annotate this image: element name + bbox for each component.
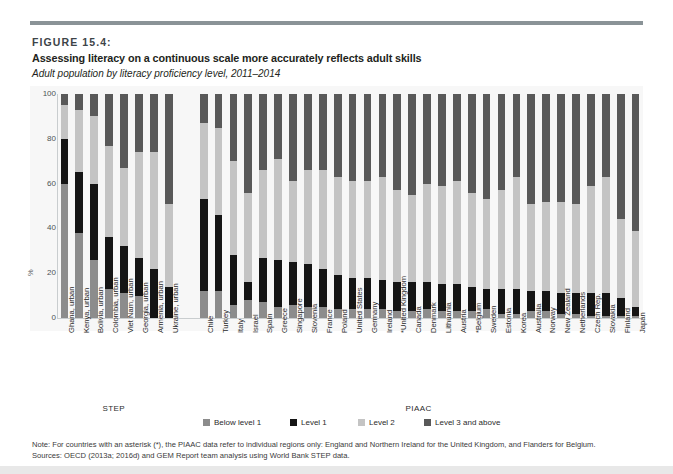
stacked-bar[interactable] xyxy=(319,94,327,318)
stacked-bar[interactable] xyxy=(542,94,550,318)
sources-text: Sources: OECD (2013a; 2016d) and GEM Rep… xyxy=(32,451,640,462)
x-axis-label: United States xyxy=(356,287,364,333)
stacked-bar[interactable] xyxy=(215,94,223,318)
stacked-bar[interactable] xyxy=(468,94,476,318)
x-axis-label: Australia xyxy=(535,303,543,333)
legend-item[interactable]: Level 1 xyxy=(290,418,327,427)
stacked-bar[interactable] xyxy=(602,94,610,318)
legend-item[interactable]: Level 2 xyxy=(358,418,395,427)
legend-item[interactable]: Below level 1 xyxy=(203,418,261,427)
x-axis-label: Singapore xyxy=(296,298,304,333)
bar-segment-level-3-and-above xyxy=(617,94,625,219)
y-tick-label: 0 xyxy=(32,314,56,322)
bar-segment-level-2 xyxy=(438,186,446,285)
stacked-bar[interactable] xyxy=(61,94,69,318)
stacked-bar[interactable] xyxy=(498,94,506,318)
stacked-bar[interactable] xyxy=(259,94,267,318)
x-axis-label: Ukraine, urban xyxy=(172,283,180,333)
bar-segment-level-3-and-above xyxy=(230,94,238,161)
stacked-bar[interactable] xyxy=(587,94,595,318)
bar-segment-level-2 xyxy=(483,199,491,289)
stacked-bar[interactable] xyxy=(557,94,565,318)
bar-segment-level-3-and-above xyxy=(334,94,342,177)
bar-segment-level-3-and-above xyxy=(379,94,387,177)
bar-segment-level-2 xyxy=(319,170,327,269)
stacked-bar[interactable] xyxy=(408,94,416,318)
legend-swatch-icon xyxy=(358,419,365,426)
x-axis-label: Chile xyxy=(207,316,215,333)
x-axis-label: Austria xyxy=(460,309,468,333)
bar-segment-level-1 xyxy=(274,260,282,307)
x-axis-label: Spain xyxy=(266,314,274,333)
stacked-bar[interactable] xyxy=(453,94,461,318)
x-axis-label: New Zealand xyxy=(564,288,572,333)
y-tick-label: 80 xyxy=(32,135,56,143)
bar-segment-level-2 xyxy=(259,170,267,257)
x-axis-label: Netherlands xyxy=(579,292,587,333)
bar-segment-level-1 xyxy=(334,275,342,309)
bar-segment-level-2 xyxy=(498,190,506,289)
stacked-bar[interactable] xyxy=(438,94,446,318)
x-axis-label: Estonia xyxy=(505,308,513,333)
bar-segment-level-2 xyxy=(587,186,595,294)
bar-segment-level-2 xyxy=(617,219,625,297)
bar-segment-level-2 xyxy=(165,204,173,287)
bar-segment-level-2 xyxy=(542,202,550,292)
bar-segment-level-3-and-above xyxy=(423,94,431,184)
x-axis-label: Czech Rep. xyxy=(594,293,602,333)
bar-segment-level-1 xyxy=(453,284,461,311)
bar-segment-level-3-and-above xyxy=(289,94,297,181)
bar-segment-level-2 xyxy=(423,184,431,283)
stacked-bar[interactable] xyxy=(513,94,521,318)
bar-segment-level-2 xyxy=(527,204,535,291)
bottom-band xyxy=(0,466,673,474)
stacked-bar[interactable] xyxy=(572,94,580,318)
bar-segment-level-2 xyxy=(408,195,416,282)
bar-segment-level-3-and-above xyxy=(90,94,98,116)
stacked-bar[interactable] xyxy=(274,94,282,318)
legend-item[interactable]: Level 3 and above xyxy=(424,418,500,427)
stacked-bar[interactable] xyxy=(334,94,342,318)
x-axis-label: Bolivia, urban xyxy=(97,287,105,333)
stacked-bar[interactable] xyxy=(617,94,625,318)
x-axis-label: Italy xyxy=(237,319,245,333)
stacked-bar[interactable] xyxy=(230,94,238,318)
group-label-step: STEP xyxy=(103,404,126,413)
figure-notes: Note: For countries with an asterisk (*)… xyxy=(32,440,640,461)
stacked-bar[interactable] xyxy=(632,94,640,318)
bar-segment-level-1 xyxy=(513,289,521,314)
bar-segment-level-2 xyxy=(468,193,476,287)
figure-card: FIGURE 15.4: Assessing literacy on a con… xyxy=(0,0,673,474)
stacked-bar[interactable] xyxy=(483,94,491,318)
bar-segment-level-3-and-above xyxy=(513,94,521,177)
bar-segment-level-3-and-above xyxy=(259,94,267,170)
x-axis-label: Germany xyxy=(371,302,379,333)
bar-segment-level-1 xyxy=(379,280,387,309)
bar-segment-level-2 xyxy=(215,128,223,215)
bar-segment-level-2 xyxy=(244,193,252,283)
stacked-bar[interactable] xyxy=(379,94,387,318)
stacked-bar[interactable] xyxy=(244,94,252,318)
top-divider-rule xyxy=(30,21,643,25)
stacked-bar[interactable] xyxy=(423,94,431,318)
bar-segment-level-3-and-above xyxy=(120,94,128,168)
stacked-bar[interactable] xyxy=(349,94,357,318)
stacked-bar[interactable] xyxy=(527,94,535,318)
stacked-bar[interactable] xyxy=(364,94,372,318)
x-axis-label: Georgia, urban xyxy=(142,282,150,333)
bar-segment-level-3-and-above xyxy=(602,94,610,177)
x-axis-label: Poland xyxy=(341,309,349,333)
x-axis-label: Korea xyxy=(520,313,528,333)
bar-segment-level-3-and-above xyxy=(542,94,550,202)
stacked-bar[interactable] xyxy=(90,94,98,318)
bar-segment-level-2 xyxy=(200,123,208,199)
x-axis-label: Canada xyxy=(415,306,423,333)
legend-label: Below level 1 xyxy=(214,418,261,427)
stacked-bar[interactable] xyxy=(289,94,297,318)
stacked-bar[interactable] xyxy=(200,94,208,318)
stacked-bar[interactable] xyxy=(75,94,83,318)
bar-segment-level-2 xyxy=(289,181,297,262)
bar-segment-level-3-and-above xyxy=(150,94,158,152)
stacked-bar[interactable] xyxy=(304,94,312,318)
bar-segment-level-1 xyxy=(259,258,267,303)
